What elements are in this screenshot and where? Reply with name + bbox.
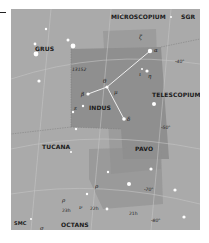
label-nu: ν — [79, 204, 82, 210]
chart-edge-tick — [0, 12, 6, 13]
label-pavo: PAVO — [135, 145, 153, 152]
star-chart: MICROSCOPIUM SGR GRUS INDUS TELESCOPIUM … — [11, 9, 200, 230]
label-rho-left: ρ — [62, 197, 65, 203]
label-beta-upper: β — [81, 91, 84, 97]
dec-label-50: -50° — [161, 125, 171, 130]
label-sigma: σ — [40, 225, 44, 230]
ra-label-23h: 23h — [62, 208, 71, 213]
label-indus: INDUS — [89, 104, 111, 111]
label-alpha: α — [154, 47, 158, 53]
chart-graphics — [11, 9, 200, 230]
label-mu: μ — [114, 89, 118, 95]
label-microscopium: MICROSCOPIUM — [111, 13, 166, 20]
label-rho-right: ρ — [95, 183, 98, 189]
label-zeta: ζ — [139, 34, 142, 40]
label-epsilon: ε — [74, 105, 77, 111]
dec-label-40: -40° — [175, 59, 185, 64]
label-sgr: SGR — [181, 13, 195, 20]
label-theta: θ — [103, 78, 106, 84]
label-smc: SMC — [14, 220, 27, 226]
label-telescopium: TELESCOPIUM — [152, 91, 200, 98]
label-iota: ι — [139, 71, 141, 77]
label-delta: δ — [127, 116, 130, 122]
label-object-13152: 13152 — [72, 67, 86, 72]
dec-label-70: -70° — [144, 187, 154, 192]
dec-label-80: -80° — [151, 218, 161, 223]
label-eta: η — [148, 73, 151, 79]
label-tucana: TUCANA — [42, 143, 70, 150]
ra-label-22h: 22h — [90, 206, 99, 211]
ra-label-21h: 21h — [129, 211, 138, 216]
label-grus: GRUS — [35, 45, 54, 52]
label-octans: OCTANS — [61, 221, 89, 228]
